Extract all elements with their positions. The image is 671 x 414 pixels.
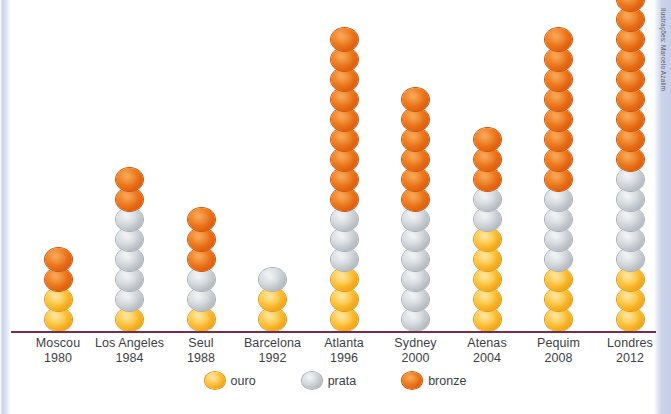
legend-item-bronze[interactable]: bronze bbox=[402, 372, 466, 389]
bar-column[interactable] bbox=[244, 271, 302, 331]
medal-bronze-icon bbox=[617, 48, 644, 71]
bar-column[interactable] bbox=[387, 91, 445, 331]
medal-bronze-icon bbox=[617, 0, 644, 11]
medal-ouro-icon bbox=[474, 228, 501, 251]
x-label-city: Sydney bbox=[394, 336, 436, 350]
bar-column[interactable] bbox=[101, 171, 159, 331]
x-axis-baseline bbox=[11, 331, 656, 333]
medal-bronze-icon bbox=[545, 28, 572, 51]
medal-bronze-icon bbox=[617, 68, 644, 91]
legend-bronze-icon bbox=[402, 372, 422, 389]
medal-bronze-icon bbox=[617, 128, 644, 151]
medal-ouro-icon bbox=[188, 308, 215, 331]
medal-ouro-icon bbox=[474, 268, 501, 291]
medal-bronze-icon bbox=[188, 248, 215, 271]
medal-bronze-icon bbox=[617, 28, 644, 51]
medal-bronze-icon bbox=[188, 228, 215, 251]
medal-prata-icon bbox=[474, 208, 501, 231]
legend-item-prata[interactable]: prata bbox=[302, 372, 357, 389]
medal-prata-icon bbox=[331, 248, 358, 271]
legend-ouro-icon bbox=[205, 372, 225, 389]
medal-ouro-icon bbox=[259, 308, 286, 331]
medal-bronze-icon bbox=[402, 168, 429, 191]
medal-bronze-icon bbox=[331, 88, 358, 111]
medal-prata-icon bbox=[545, 208, 572, 231]
medal-bronze-icon bbox=[331, 108, 358, 131]
medal-bronze-icon bbox=[474, 168, 501, 191]
medal-prata-icon bbox=[617, 168, 644, 191]
medal-ouro-icon bbox=[545, 268, 572, 291]
medal-bronze-icon bbox=[617, 108, 644, 131]
medal-prata-icon bbox=[402, 248, 429, 271]
x-label-city: Londres bbox=[607, 336, 653, 350]
medal-bronze-icon bbox=[188, 208, 215, 231]
legend-item-ouro[interactable]: ouro bbox=[205, 372, 256, 389]
medal-prata-icon bbox=[402, 288, 429, 311]
medal-prata-icon bbox=[116, 228, 143, 251]
medal-ouro-icon bbox=[45, 288, 72, 311]
bar-column[interactable] bbox=[458, 131, 516, 331]
bar-column[interactable] bbox=[172, 211, 230, 331]
chart-columns bbox=[11, 0, 656, 332]
medal-ouro-icon bbox=[474, 308, 501, 331]
medal-bronze-icon bbox=[474, 128, 501, 151]
medal-ouro-icon bbox=[545, 308, 572, 331]
medal-bronze-icon bbox=[116, 168, 143, 191]
medal-prata-icon bbox=[331, 228, 358, 251]
medal-bronze-icon bbox=[545, 128, 572, 151]
medal-bronze-icon bbox=[545, 88, 572, 111]
medal-ouro-icon bbox=[545, 288, 572, 311]
chart-legend: ouropratabronze bbox=[0, 372, 671, 389]
medal-bronze-icon bbox=[402, 148, 429, 171]
medal-ouro-icon bbox=[259, 288, 286, 311]
x-label-city: Barcelona bbox=[244, 336, 301, 350]
medal-prata-icon bbox=[188, 268, 215, 291]
medal-prata-icon bbox=[617, 208, 644, 231]
x-label-city: Atenas bbox=[467, 336, 507, 350]
medal-bronze-icon bbox=[331, 188, 358, 211]
medal-bronze-icon bbox=[545, 68, 572, 91]
medal-prata-icon bbox=[259, 268, 286, 291]
legend-label: prata bbox=[328, 374, 357, 388]
medal-bronze-icon bbox=[331, 68, 358, 91]
x-label-city: Atlanta bbox=[324, 336, 364, 350]
medal-prata-icon bbox=[545, 188, 572, 211]
medal-prata-icon bbox=[617, 188, 644, 211]
legend-label: bronze bbox=[428, 374, 466, 388]
medal-prata-icon bbox=[617, 248, 644, 271]
medal-prata-icon bbox=[402, 228, 429, 251]
medal-ouro-icon bbox=[331, 288, 358, 311]
medal-stacked-bar-chart: Moscou1980Los Angeles1984Seul1988Barcelo… bbox=[0, 0, 671, 414]
medal-prata-icon bbox=[116, 288, 143, 311]
medal-prata-icon bbox=[617, 228, 644, 251]
medal-ouro-icon bbox=[331, 268, 358, 291]
bar-column[interactable] bbox=[315, 31, 373, 331]
medal-ouro-icon bbox=[331, 308, 358, 331]
medal-prata-icon bbox=[545, 248, 572, 271]
medal-bronze-icon bbox=[331, 168, 358, 191]
legend-prata-icon bbox=[302, 372, 322, 389]
medal-prata-icon bbox=[402, 268, 429, 291]
medal-bronze-icon bbox=[402, 108, 429, 131]
medal-prata-icon bbox=[116, 248, 143, 271]
x-label-city: Pequim bbox=[537, 336, 580, 350]
medal-bronze-icon bbox=[402, 188, 429, 211]
medal-prata-icon bbox=[331, 208, 358, 231]
medal-prata-icon bbox=[402, 308, 429, 331]
medal-ouro-icon bbox=[116, 308, 143, 331]
x-label-year: 2012 bbox=[583, 351, 671, 366]
x-label-city: Moscou bbox=[36, 336, 80, 350]
x-label-city: Seul bbox=[188, 336, 213, 350]
medal-prata-icon bbox=[188, 288, 215, 311]
bar-column[interactable] bbox=[29, 251, 87, 331]
medal-bronze-icon bbox=[617, 148, 644, 171]
medal-ouro-icon bbox=[474, 288, 501, 311]
x-axis-labels: Moscou1980Los Angeles1984Seul1988Barcelo… bbox=[11, 336, 656, 370]
medal-ouro-icon bbox=[474, 248, 501, 271]
medal-ouro-icon bbox=[45, 308, 72, 331]
medal-bronze-icon bbox=[402, 88, 429, 111]
bar-column[interactable] bbox=[530, 31, 588, 331]
bar-column[interactable] bbox=[601, 0, 659, 331]
medal-bronze-icon bbox=[402, 128, 429, 151]
medal-bronze-icon bbox=[617, 88, 644, 111]
